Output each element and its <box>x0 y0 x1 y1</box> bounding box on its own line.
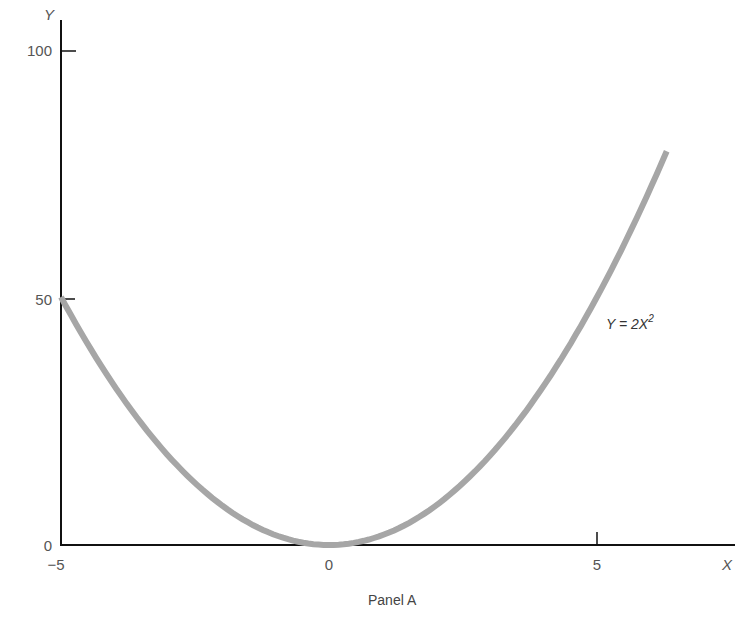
y-tick-label-0: 0 <box>44 537 52 554</box>
equation-annotation: Y = 2X2 <box>606 313 654 332</box>
x-tick-label-5: 5 <box>593 556 601 573</box>
y-axis-label: Y <box>44 6 55 23</box>
y-tick-label-50: 50 <box>35 291 52 308</box>
x-tick-label-0: 0 <box>325 556 333 573</box>
x-axis-label: X <box>721 556 733 573</box>
panel-caption: Panel A <box>368 592 417 608</box>
parabola-curve <box>61 151 667 545</box>
chart-canvas: Y X 100 50 0 −5 0 5 Y = 2X2 Panel A <box>0 0 754 620</box>
y-tick-label-100: 100 <box>27 42 52 59</box>
x-tick-label-neg5: −5 <box>47 556 64 573</box>
